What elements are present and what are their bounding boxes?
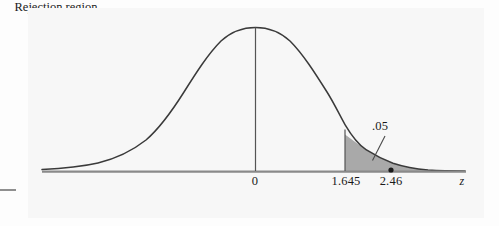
- axis-label-z: z: [452, 174, 472, 189]
- distribution-plot: [0, 0, 499, 226]
- normal-distribution-figure: 0 1.645 2.46 z .05 Rejection region: [0, 0, 499, 226]
- normal-curve: [42, 28, 465, 172]
- test-statistic-marker: [388, 167, 393, 172]
- alpha-area-label: .05: [372, 119, 404, 134]
- tick-label-test-statistic: 2.46: [368, 174, 414, 189]
- tick-label-zero: 0: [244, 174, 266, 189]
- rejection-region-shading: [345, 135, 465, 171]
- tick-label-critical-value: 1.645: [318, 174, 374, 189]
